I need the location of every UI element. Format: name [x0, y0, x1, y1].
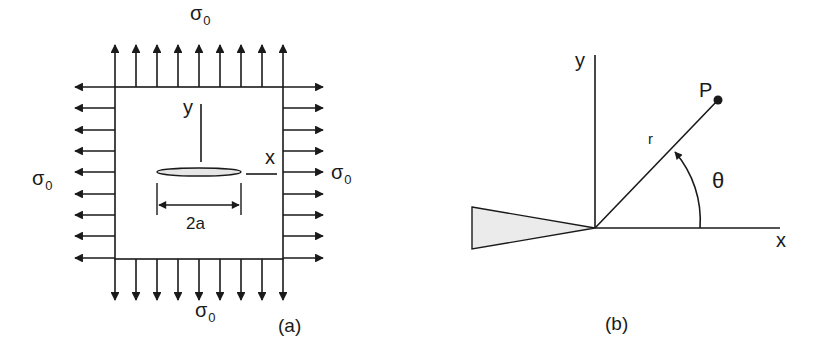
top-stress-label: σ0 — [190, 3, 211, 27]
crack-ellipse — [157, 168, 241, 176]
sigma-subscript: 0 — [45, 178, 52, 193]
left-stress-arrows — [75, 87, 115, 258]
y-axis-label-b: y — [575, 50, 585, 70]
panel-a-diagram — [75, 45, 323, 300]
x-axis-label-b: x — [776, 230, 786, 250]
y-axis-label-a: y — [183, 97, 193, 117]
crack-wedge — [472, 207, 595, 249]
right-stress-label: σ0 — [331, 162, 352, 186]
panel-b-caption: (b) — [605, 314, 628, 333]
top-stress-arrows — [115, 45, 283, 87]
point-p-label: P — [699, 80, 712, 100]
panel-b-diagram — [472, 55, 780, 249]
bottom-stress-arrows — [115, 259, 283, 300]
angle-arc — [675, 152, 700, 228]
left-stress-label: σ0 — [32, 168, 53, 192]
sigma-symbol: σ — [190, 2, 202, 24]
sigma-subscript: 0 — [344, 172, 351, 187]
sigma-symbol: σ — [195, 299, 207, 321]
bottom-stress-label: σ0 — [195, 300, 216, 324]
sigma-subscript: 0 — [208, 310, 215, 325]
figure-canvas — [0, 0, 817, 357]
sigma-subscript: 0 — [203, 13, 210, 28]
point-p-dot — [714, 96, 723, 105]
sigma-symbol: σ — [32, 167, 44, 189]
right-stress-arrows — [283, 87, 323, 258]
radius-label: r — [648, 131, 653, 146]
sigma-symbol: σ — [331, 161, 343, 183]
crack-length-label: 2a — [186, 215, 205, 232]
panel-a-caption: (a) — [278, 316, 301, 335]
angle-theta-label: θ — [712, 170, 724, 192]
x-axis-label-a: x — [265, 147, 275, 167]
